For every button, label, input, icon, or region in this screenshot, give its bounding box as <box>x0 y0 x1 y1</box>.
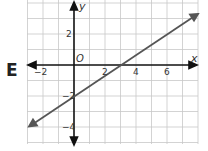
x-tick-neg2: −2 <box>34 67 47 77</box>
grid <box>27 0 198 144</box>
coordinate-graph: y x O −2 2 4 6 2 −2 −4 <box>0 0 208 151</box>
y-tick-neg4: −4 <box>62 122 76 132</box>
x-axis-label: x <box>190 52 198 65</box>
x-tick-4: 4 <box>133 67 139 77</box>
y-tick-neg2: −2 <box>62 91 75 101</box>
origin-label: O <box>76 53 84 64</box>
x-tick-2: 2 <box>102 67 108 77</box>
y-axis-down-arrow-icon <box>71 137 78 145</box>
y-axis-label: y <box>78 0 86 13</box>
plotted-line <box>29 14 198 127</box>
line-arrow-upper-icon <box>190 14 198 21</box>
x-tick-6: 6 <box>164 67 170 77</box>
y-tick-2: 2 <box>66 29 72 39</box>
line-arrow-lower-icon <box>29 120 37 127</box>
x-axis <box>28 62 197 69</box>
